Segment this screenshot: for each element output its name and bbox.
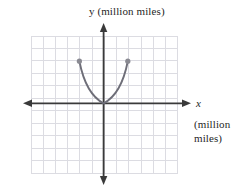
x-axis-left-arrowhead <box>23 100 32 107</box>
right-endpoint-dot <box>125 59 130 64</box>
y-axis-top-arrowhead <box>100 23 107 32</box>
x-axis-right-arrowhead <box>182 100 191 107</box>
left-endpoint-dot <box>77 59 82 64</box>
coordinate-plane-figure: y (million miles) x (million miles) <box>0 0 243 193</box>
y-axis-bottom-arrowhead <box>100 176 107 185</box>
graph-svg <box>0 0 243 193</box>
x-axis-variable-label: x <box>196 97 201 109</box>
x-axis-unit-label: (million miles) <box>194 117 243 145</box>
y-axis-label: y (million miles) <box>89 5 165 17</box>
